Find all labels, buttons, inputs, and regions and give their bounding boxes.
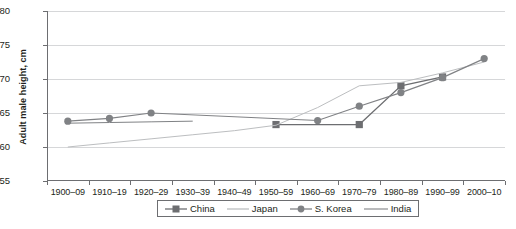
- x-tick-label: 1930–39: [176, 187, 210, 197]
- y-tick-label: 165: [0, 108, 10, 118]
- legend-label-japan: Japan: [252, 204, 278, 214]
- data-point-marker: [356, 121, 363, 128]
- x-tick-label: 1960–69: [300, 187, 334, 197]
- y-axis-title: Adult male height, cm: [18, 22, 28, 172]
- chart-figure: Adult male height, cm 155160165170175180…: [0, 0, 516, 229]
- x-tick-mark: [505, 181, 506, 185]
- legend-label-india: India: [391, 204, 412, 214]
- x-tick-mark: [297, 181, 298, 185]
- legend-key-square-icon: [165, 204, 187, 214]
- x-tick-label: 1980–89: [384, 187, 418, 197]
- y-tick-label: 160: [0, 142, 10, 152]
- x-tick-mark: [422, 181, 423, 185]
- x-tick-mark: [130, 181, 131, 185]
- data-point-marker: [147, 109, 154, 116]
- x-tick-label: 2000–10: [467, 187, 501, 197]
- legend-key-line-icon: [364, 204, 388, 214]
- series-line-india: [68, 121, 193, 123]
- data-point-marker: [106, 115, 113, 122]
- y-tick-label: 170: [0, 74, 10, 84]
- y-tick-label: 180: [0, 6, 10, 16]
- legend-label-china: China: [190, 204, 215, 214]
- data-point-marker: [397, 89, 404, 96]
- data-point-marker: [64, 118, 71, 125]
- legend-key-circle-icon: [290, 204, 312, 214]
- x-tick-label: 1900–09: [51, 187, 85, 197]
- x-tick-label: 1910–19: [92, 187, 126, 197]
- legend-item-india[interactable]: India: [364, 204, 412, 214]
- legend-item-s-korea[interactable]: S. Korea: [290, 204, 352, 214]
- data-point-marker: [314, 117, 321, 124]
- x-tick-mark: [463, 181, 464, 185]
- x-tick-label: 1920–29: [134, 187, 168, 197]
- x-tick-mark: [338, 181, 339, 185]
- x-tick-mark: [255, 181, 256, 185]
- x-tick-mark: [380, 181, 381, 185]
- x-tick-label: 1970–79: [342, 187, 376, 197]
- x-tick-label: 1990–99: [425, 187, 459, 197]
- data-point-marker: [397, 82, 404, 89]
- data-point-marker: [439, 74, 446, 81]
- y-tick-label: 175: [0, 40, 10, 50]
- chart-legend: China Japan S. Korea India: [157, 200, 419, 217]
- data-point-marker: [481, 55, 488, 62]
- legend-item-japan[interactable]: Japan: [227, 204, 278, 214]
- series-line-china: [276, 77, 443, 125]
- legend-label-s-korea: S. Korea: [315, 204, 352, 214]
- x-tick-label: 1950–59: [259, 187, 293, 197]
- y-tick-label: 155: [0, 176, 10, 186]
- legend-item-china[interactable]: China: [165, 204, 215, 214]
- x-tick-mark: [172, 181, 173, 185]
- x-tick-mark: [89, 181, 90, 185]
- data-series-layer: [47, 11, 505, 181]
- legend-key-line-light-icon: [227, 204, 249, 214]
- series-line-s-korea: [68, 59, 484, 122]
- x-tick-mark: [214, 181, 215, 185]
- data-point-marker: [356, 103, 363, 110]
- series-line-japan: [68, 62, 484, 147]
- x-tick-label: 1940–49: [217, 187, 251, 197]
- x-tick-mark: [47, 181, 48, 185]
